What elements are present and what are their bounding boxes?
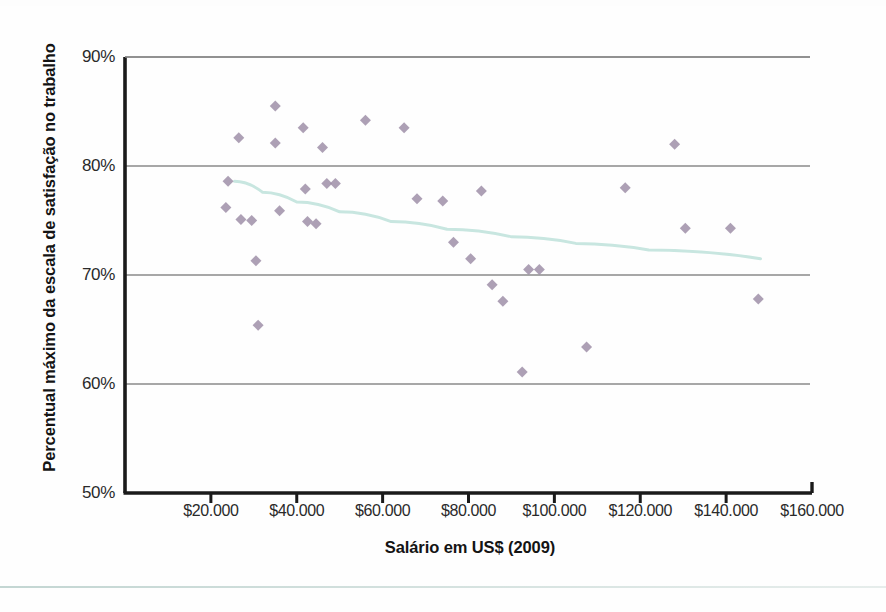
scatter-point [360, 115, 371, 126]
scatter-point [317, 142, 328, 153]
scatter-point [669, 139, 680, 150]
scatter-point [274, 205, 285, 216]
scatter-point [517, 367, 528, 378]
scatter-point [620, 182, 631, 193]
footer-rule [0, 586, 886, 588]
scatter-point [448, 237, 459, 248]
scatter-point [523, 264, 534, 275]
scatter-point [235, 214, 246, 225]
scatter-point [725, 223, 736, 234]
scatter-point [250, 255, 261, 266]
scatter-point [497, 296, 508, 307]
chart-figure: Percentual máximo da escala de satisfaçã… [0, 0, 886, 612]
scatter-point [270, 101, 281, 112]
scatter-point [298, 122, 309, 133]
trendline-path [234, 181, 760, 258]
scatter-point [581, 341, 592, 352]
scatter-point [300, 183, 311, 194]
scatter-point [399, 122, 410, 133]
scatter-point [465, 253, 476, 264]
scatter-point [680, 223, 691, 234]
scatter-point [233, 132, 244, 143]
gridlines [125, 57, 810, 384]
scatter-point [220, 202, 231, 213]
scatter-point [411, 193, 422, 204]
scatter-point [253, 320, 264, 331]
scatter-point [476, 186, 487, 197]
scatter-point [753, 293, 764, 304]
scatter-point [487, 279, 498, 290]
scatter-points [220, 101, 763, 378]
plot-area [0, 0, 886, 612]
scatter-point [223, 176, 234, 187]
scatter-point [330, 178, 341, 189]
scatter-point [534, 264, 545, 275]
trendline [234, 181, 760, 258]
scatter-point [311, 218, 322, 229]
scatter-point [270, 138, 281, 149]
scatter-point [246, 215, 257, 226]
scatter-point [437, 195, 448, 206]
scatter-point [302, 216, 313, 227]
